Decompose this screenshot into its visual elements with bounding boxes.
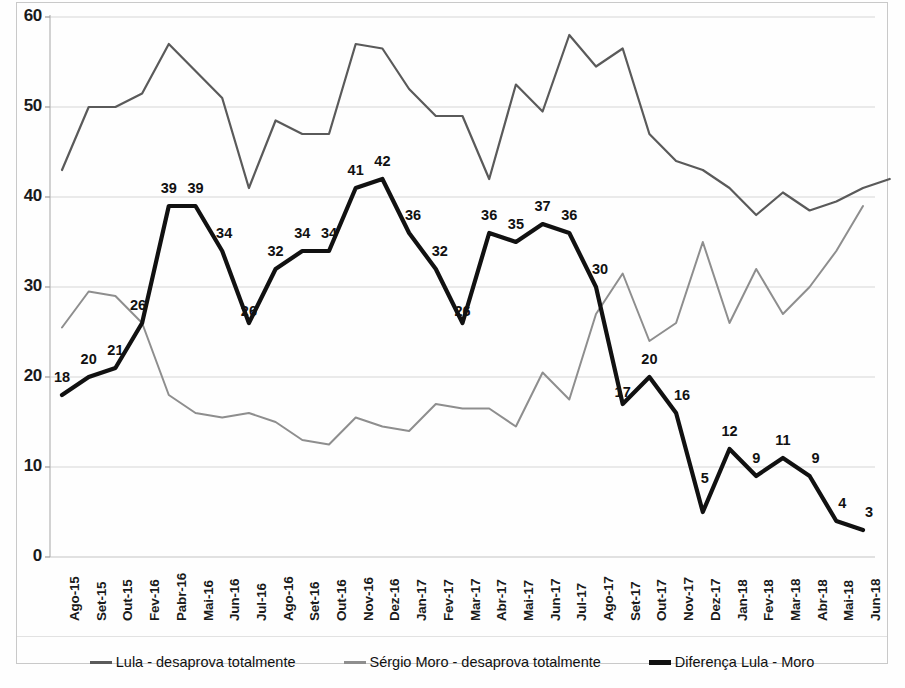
- data-label-nov-17: 16: [674, 387, 690, 403]
- x-tick-set-17: Set-17: [628, 582, 643, 621]
- x-tick-fev-18: Fev-18: [761, 579, 776, 621]
- data-label-nov-16: 41: [348, 162, 364, 178]
- x-tick-mai-17: Mai-17: [521, 580, 536, 621]
- data-label-set-15: 20: [81, 351, 97, 367]
- data-label-fev-16: 26: [130, 297, 146, 313]
- plot-area: [50, 17, 875, 557]
- data-label-pabr-16: 39: [161, 180, 177, 196]
- data-label-set-17: 17: [615, 384, 631, 400]
- data-label-jun-16: 34: [216, 225, 232, 241]
- x-tick-fev-16: Fev-16: [147, 579, 162, 621]
- data-label-mai-17: 35: [508, 216, 524, 232]
- x-tick-ago-15: Ago-15: [67, 576, 82, 621]
- data-label-mai-16: 39: [187, 180, 203, 196]
- x-tick-fev-17: Fev-17: [441, 579, 456, 621]
- x-tick-jun-17: Jun-17: [548, 579, 563, 621]
- data-label-dez-16: 42: [374, 153, 390, 169]
- x-tick-mar-17: Mar-17: [468, 579, 483, 621]
- x-tick-jul-16: Jul-16: [254, 583, 269, 621]
- x-tick-out-17: Out-17: [654, 579, 669, 621]
- data-label-jun-17: 37: [535, 198, 551, 214]
- legend-label: Lula - desaprova totalmente: [116, 654, 296, 670]
- x-tick-jan-17: Jan-17: [414, 579, 429, 621]
- x-tick-pabr-16: Pabr-16: [174, 573, 189, 621]
- data-label-jan-18: 12: [721, 423, 737, 439]
- x-tick-abr-18: Abr-18: [815, 579, 830, 621]
- legend-line-icon: [649, 660, 671, 665]
- series-line-0: [62, 35, 890, 215]
- x-tick-ago-16: Ago-16: [281, 576, 296, 621]
- x-tick-mai-18: Mai-18: [841, 580, 856, 621]
- data-label-set-16: 34: [294, 225, 310, 241]
- data-label-mar-17: 26: [454, 303, 470, 319]
- legend-item-0[interactable]: Lula - desaprova totalmente: [90, 654, 296, 670]
- x-tick-dez-16: Dez-16: [387, 579, 402, 621]
- legend-label: Diferença Lula - Moro: [675, 654, 814, 670]
- x-tick-nov-17: Nov-17: [681, 577, 696, 621]
- x-tick-out-16: Out-16: [334, 579, 349, 621]
- x-tick-jun-18: Jun-18: [868, 579, 883, 621]
- data-label-fev-18: 9: [752, 450, 760, 466]
- x-tick-set-16: Set-16: [307, 582, 322, 621]
- data-label-dez-17: 5: [701, 470, 709, 486]
- x-tick-ago-17: Ago-17: [601, 576, 616, 621]
- series-line-2: [62, 179, 863, 530]
- data-label-abr-18: 9: [812, 450, 820, 466]
- chart-legend: Lula - desaprova totalmenteSérgio Moro -…: [17, 645, 887, 679]
- legend-label: Sérgio Moro - desaprova totalmente: [370, 654, 601, 670]
- series-line-1: [62, 206, 863, 445]
- x-tick-set-15: Set-15: [94, 582, 109, 621]
- x-tick-nov-16: Nov-16: [361, 577, 376, 621]
- data-label-jul-17: 36: [561, 207, 577, 223]
- legend-line-icon: [90, 661, 112, 664]
- data-label-fev-17: 32: [432, 243, 448, 259]
- data-label-abr-17: 36: [481, 207, 497, 223]
- legend-item-1[interactable]: Sérgio Moro - desaprova totalmente: [344, 654, 601, 670]
- x-tick-dez-17: Dez-17: [708, 579, 723, 621]
- data-label-ago-17: 30: [592, 261, 608, 277]
- legend-line-icon: [344, 661, 366, 664]
- legend-divider: [17, 636, 887, 637]
- data-label-mar-18: 11: [775, 432, 790, 448]
- x-tick-mar-18: Mar-18: [788, 579, 803, 621]
- data-label-out-17: 20: [641, 351, 657, 367]
- legend-item-2[interactable]: Diferença Lula - Moro: [649, 654, 814, 670]
- data-label-mai-18: 4: [838, 495, 846, 511]
- data-label-out-16: 34: [321, 225, 337, 241]
- x-tick-mai-16: Mai-16: [201, 580, 216, 621]
- data-label-ago-15: 18: [54, 369, 70, 385]
- data-label-jun-18: 3: [865, 504, 873, 520]
- chart-figure: 0102030405060 Ago-15Set-15Out-15Fev-16Pa…: [0, 0, 905, 688]
- data-label-jan-17: 36: [405, 207, 421, 223]
- x-tick-jul-17: Jul-17: [574, 583, 589, 621]
- x-tick-jun-16: Jun-16: [227, 579, 242, 621]
- data-label-jul-16: 26: [241, 303, 257, 319]
- x-tick-abr-17: Abr-17: [494, 579, 509, 621]
- data-label-out-15: 21: [107, 342, 123, 358]
- x-tick-jan-18: Jan-18: [735, 579, 750, 621]
- data-label-ago-16: 32: [268, 243, 284, 259]
- x-tick-out-15: Out-15: [120, 579, 135, 621]
